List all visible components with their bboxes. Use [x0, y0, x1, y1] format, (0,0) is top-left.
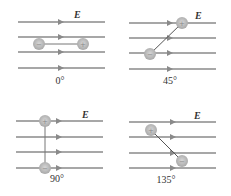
- panel-135deg: + − E 135°: [129, 110, 216, 185]
- panel-45deg: − + E 45°: [129, 10, 216, 86]
- angle-label: 90°: [50, 173, 64, 184]
- dipole-bar: [151, 130, 182, 161]
- field-lines: [129, 119, 216, 171]
- svg-text:+: +: [80, 41, 86, 49]
- panel-90deg: + − E 90°: [16, 109, 103, 184]
- svg-text:+: +: [148, 127, 154, 135]
- svg-text:−: −: [179, 158, 185, 166]
- field-label: E: [81, 109, 89, 120]
- svg-text:+: +: [42, 118, 48, 126]
- field-label: E: [73, 9, 81, 20]
- dipole-diagram: − + E 0° − + E 45° + − E: [0, 0, 231, 196]
- svg-text:−: −: [147, 51, 153, 59]
- field-label: E: [193, 110, 201, 121]
- angle-label: 135°: [157, 174, 176, 185]
- panel-0deg: − + E 0°: [18, 9, 105, 86]
- field-lines: [16, 118, 103, 171]
- angle-label: 45°: [163, 75, 177, 86]
- svg-text:+: +: [179, 20, 185, 28]
- field-label: E: [194, 10, 202, 21]
- field-lines: [129, 20, 216, 72]
- field-lines: [18, 19, 105, 71]
- svg-text:−: −: [42, 165, 48, 173]
- angle-label: 0°: [56, 75, 65, 86]
- svg-text:−: −: [36, 41, 42, 49]
